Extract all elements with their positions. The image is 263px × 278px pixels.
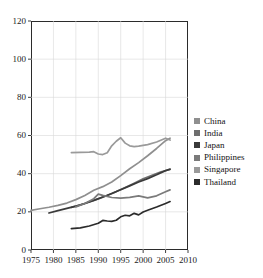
legend-swatch-icon bbox=[194, 142, 200, 148]
legend-item-thailand[interactable]: Thailand bbox=[194, 176, 262, 188]
data-series-group bbox=[31, 138, 170, 229]
legend-item-singapore[interactable]: Singapore bbox=[194, 164, 262, 176]
y-tick-label: 40 bbox=[17, 169, 26, 178]
series-line-china bbox=[31, 138, 170, 210]
chart-legend: ChinaIndiaJapanPhilippinesSingaporeThail… bbox=[194, 115, 262, 188]
y-tick-label: 20 bbox=[17, 207, 26, 216]
line-chart-figure: 120100806040200 197519801985199019952000… bbox=[0, 0, 263, 278]
x-tick-label: 2000 bbox=[131, 256, 155, 265]
x-tick-label: 1980 bbox=[41, 256, 65, 265]
axis-tick-marks bbox=[28, 21, 188, 253]
legend-item-india[interactable]: India bbox=[194, 127, 262, 139]
legend-swatch-icon bbox=[194, 155, 200, 161]
x-tick-label: 1975 bbox=[19, 256, 43, 265]
x-tick-label: 1985 bbox=[64, 256, 88, 265]
y-tick-label: 120 bbox=[13, 17, 27, 26]
legend-item-label: Philippines bbox=[204, 153, 245, 162]
legend-item-label: India bbox=[204, 129, 223, 138]
legend-item-japan[interactable]: Japan bbox=[194, 139, 262, 151]
legend-item-philippines[interactable]: Philippines bbox=[194, 152, 262, 164]
y-tick-label: 80 bbox=[17, 93, 26, 102]
y-tick-label: 60 bbox=[17, 131, 26, 140]
legend-item-label: China bbox=[204, 117, 226, 126]
legend-item-label: Singapore bbox=[204, 165, 241, 174]
y-tick-label: 0 bbox=[22, 246, 27, 255]
legend-swatch-icon bbox=[194, 167, 200, 173]
legend-swatch-icon bbox=[194, 130, 200, 136]
y-tick-label: 100 bbox=[13, 55, 27, 64]
gridlines bbox=[31, 21, 188, 250]
legend-swatch-icon bbox=[194, 179, 200, 185]
legend-item-label: Japan bbox=[204, 141, 225, 150]
legend-item-label: Thailand bbox=[204, 178, 236, 187]
x-tick-label: 2005 bbox=[154, 256, 178, 265]
legend-item-china[interactable]: China bbox=[194, 115, 262, 127]
legend-swatch-icon bbox=[194, 118, 200, 124]
x-tick-label: 1990 bbox=[86, 256, 110, 265]
x-tick-label: 1995 bbox=[109, 256, 133, 265]
x-tick-label: 2010 bbox=[176, 256, 200, 265]
